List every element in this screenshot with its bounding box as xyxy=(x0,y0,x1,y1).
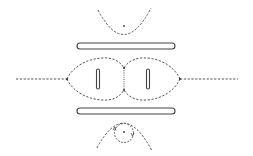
top-center-dot xyxy=(123,25,125,27)
right-inner-electrode xyxy=(147,69,150,89)
field-diagram xyxy=(0,0,253,156)
left-inner-electrode xyxy=(97,69,100,89)
left-lobe xyxy=(67,58,124,100)
junction-bottom-dot xyxy=(123,89,125,91)
top-plate xyxy=(77,43,175,49)
right-lobe xyxy=(124,58,180,100)
bottom-parabola xyxy=(97,123,152,151)
bottom-plate xyxy=(77,108,175,114)
orbit-arrow-icon-right xyxy=(131,133,134,136)
bottom-center-dot xyxy=(123,131,125,133)
top-parabola xyxy=(98,8,151,35)
diagram-canvas xyxy=(0,0,253,156)
junction-top-dot xyxy=(123,67,125,69)
bottom-orbit-circle xyxy=(115,124,134,143)
